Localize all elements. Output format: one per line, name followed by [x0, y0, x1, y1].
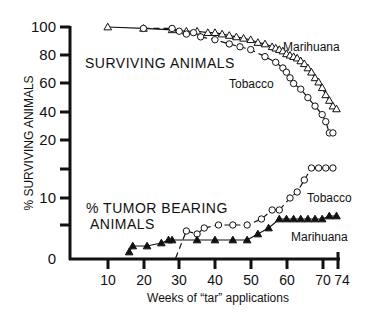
- x-tick-40: 40: [207, 272, 223, 288]
- data-point: [258, 216, 264, 222]
- x-tick-20: 20: [136, 272, 152, 288]
- data-point: [269, 207, 275, 213]
- data-point: [330, 165, 336, 171]
- data-point: [322, 91, 330, 98]
- data-point: [319, 111, 325, 117]
- data-point: [315, 165, 321, 171]
- data-point: [323, 118, 329, 124]
- data-point: [276, 207, 282, 213]
- y-tick-20: 20: [39, 131, 56, 148]
- data-point: [201, 225, 207, 231]
- data-point: [294, 189, 300, 195]
- data-point: [312, 103, 318, 109]
- data-point: [308, 165, 314, 171]
- x-tick-70: 70: [315, 272, 331, 288]
- x-tick-60: 60: [279, 272, 295, 288]
- data-point: [197, 34, 203, 40]
- x-tick-labels: 10 20 30 40 50 60 70 74: [100, 272, 350, 288]
- data-point: [301, 177, 307, 183]
- x-tick-50: 50: [243, 272, 259, 288]
- y-tick-40: 40: [39, 103, 56, 120]
- data-point: [330, 130, 336, 136]
- data-point: [226, 41, 232, 47]
- y-tick-60: 60: [39, 74, 56, 91]
- data-point: [190, 29, 196, 35]
- y-tick-10: 10: [39, 189, 56, 206]
- x-tick-74: 74: [334, 272, 350, 288]
- data-point: [237, 44, 243, 50]
- data-point: [169, 25, 175, 31]
- data-point: [262, 53, 268, 59]
- data-point: [140, 25, 146, 31]
- x-axis-title: Weeks of “tar” applications: [147, 291, 289, 305]
- x-tick-10: 10: [100, 272, 116, 288]
- data-point: [290, 80, 296, 86]
- data-point: [305, 94, 311, 100]
- data-point: [273, 59, 279, 65]
- data-point: [230, 222, 236, 228]
- chart-figure: 100 80 60 40 20 10 0 10 20 30 40 50 60 7…: [0, 0, 367, 319]
- data-point: [287, 195, 293, 201]
- label-surv-tobacco: Tobacco: [229, 77, 274, 91]
- label-tumor-marihuana: Marihuana: [291, 230, 348, 244]
- tumor-annotation-line1: % TUMOR BEARING: [86, 200, 228, 216]
- surviving-annotation: SURVIVING ANIMALS: [85, 55, 235, 71]
- label-surv-marihuana: Marihuana: [283, 40, 340, 54]
- y-tick-100: 100: [31, 18, 56, 35]
- data-point: [254, 230, 262, 237]
- data-point: [215, 222, 221, 228]
- data-point: [248, 46, 254, 52]
- y-tick-80: 80: [39, 46, 56, 63]
- data-point: [298, 86, 304, 92]
- tumor-annotation-line2: ANIMALS: [90, 216, 155, 232]
- data-point: [183, 228, 189, 234]
- label-tumor-tobacco: Tobacco: [307, 191, 352, 205]
- y-tick-0: 0: [48, 250, 56, 267]
- data-point: [183, 31, 189, 37]
- data-point: [244, 222, 250, 228]
- x-tick-30: 30: [171, 272, 187, 288]
- data-point: [323, 165, 329, 171]
- y-axis-title: % SURVIVING ANIMALS: [22, 75, 36, 210]
- data-point: [176, 28, 182, 34]
- data-point: [212, 37, 218, 43]
